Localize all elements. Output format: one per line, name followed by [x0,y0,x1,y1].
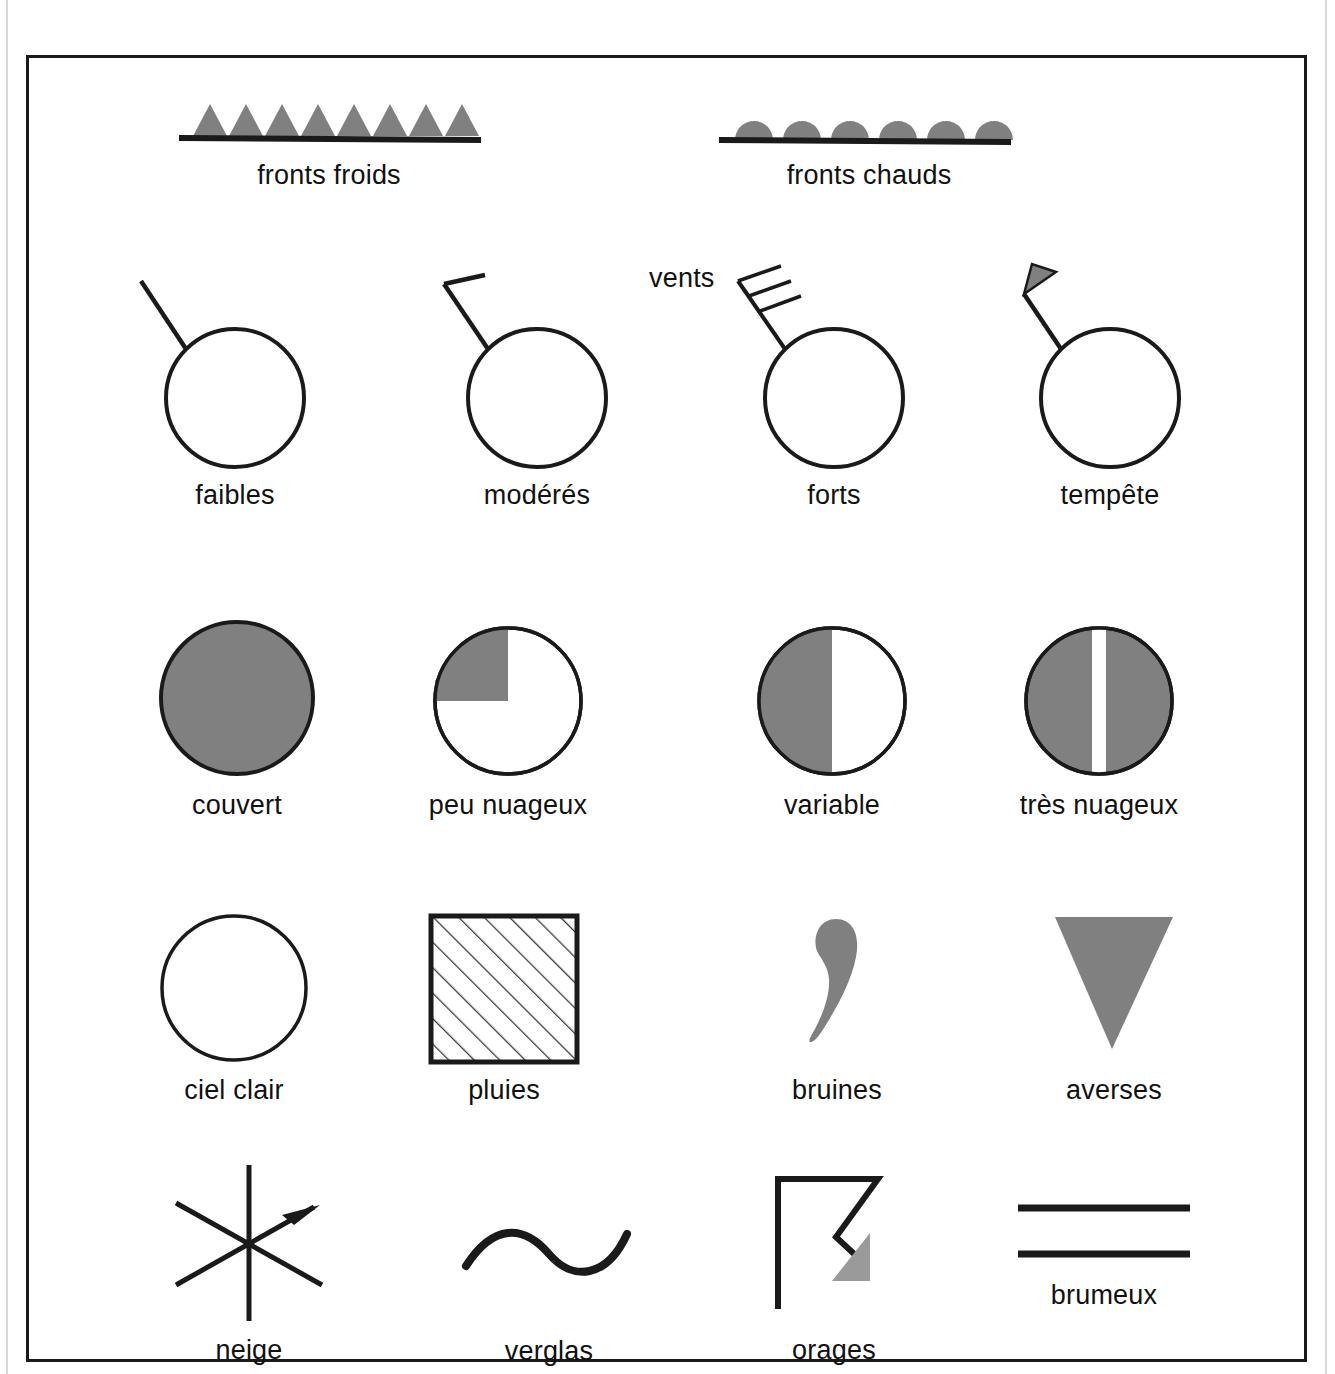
legend-label-vents-moderes: modérés [484,480,590,511]
cold-front-icon [179,98,479,158]
legend-label-vents-tempete: tempête [1061,480,1160,511]
legend-label-neige: neige [215,1335,282,1366]
legend-label-verglas: verglas [505,1336,593,1367]
legend-label-vents-forts: forts [807,480,861,511]
snow-icon [154,1163,344,1323]
sky-few-clouds-icon [432,625,584,777]
legend-label-couvert: couvert [192,790,282,821]
wind-storm-icon [994,258,1204,468]
rain-icon [428,913,580,1065]
legend-frame: fronts froids fronts chauds vents [26,55,1307,1362]
mist-icon [1014,1198,1194,1268]
wind-light-icon [127,258,337,468]
thunderstorm-icon [774,1173,904,1313]
legend-label-ciel-clair: ciel clair [184,1075,284,1106]
legend-label-brumeux: brumeux [1051,1280,1157,1311]
legend-label-fronts-chauds: fronts chauds [787,160,952,191]
legend-label-variable: variable [784,790,880,821]
warm-front-icon [719,98,1009,158]
legend-label-peu-nuageux: peu nuageux [429,790,587,821]
showers-icon [1049,913,1179,1063]
legend-label-vents-faibles: faibles [195,480,274,511]
sky-clear-icon [159,913,309,1063]
page-edge-left [6,0,8,1374]
legend-label-orages: orages [792,1335,876,1366]
sky-mostly-cloudy-icon [1023,625,1175,777]
legend-label-pluies: pluies [468,1075,540,1106]
legend-label-bruines: bruines [792,1075,882,1106]
wind-moderate-icon [427,258,637,468]
vents-group-label: vents [649,263,715,294]
drizzle-icon [784,913,894,1063]
page-edge-right [1325,0,1327,1374]
legend-label-averses: averses [1066,1075,1162,1106]
freezing-rain-icon [461,1208,641,1288]
page-canvas: fronts froids fronts chauds vents [0,0,1335,1374]
wind-strong-icon [719,258,929,468]
sky-variable-icon [756,625,908,777]
legend-label-fronts-froids: fronts froids [257,160,401,191]
legend-label-tres-nuageux: très nuageux [1020,790,1179,821]
sky-overcast-icon [157,618,317,778]
